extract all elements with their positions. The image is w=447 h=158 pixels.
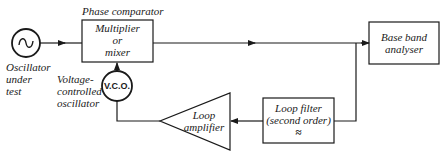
loop-amplifier-label-line: amplifier [180,121,228,133]
baseband-label-line: analyser [369,43,439,55]
baseband-label: Base band analyser [369,31,439,55]
loop-filter-label-line: (second order) [263,114,334,126]
loop-filter-label: Loop filter (second order) ≈ [263,102,334,138]
filter-symbol-icon: ≈ [263,126,334,138]
mixer-label-line: or [82,34,153,46]
vco-description-line: oscillator [57,97,102,109]
oscillator-symbol [12,29,40,57]
oscillator-label-line: Oscillator [6,61,51,73]
loop-amplifier-label: Loop amplifier [180,109,228,133]
feedback-line [334,43,356,121]
baseband-label-line: Base band [369,31,439,43]
mixer-label: Multiplier or mixer [82,22,153,58]
vco-description-line: Voltage- [57,73,102,85]
vco-symbol: V.C.O. [102,81,132,91]
mixer-label-line: Multiplier [82,22,153,34]
vco-description-line: controlled [57,85,102,97]
phase-comparator-label: Phase comparator [82,5,164,17]
oscillator-label-line: under [6,73,51,85]
vco-description: Voltage- controlled oscillator [57,73,102,109]
oscillator-label: Oscillator under test [6,61,51,97]
oscillator-label-line: test [6,85,51,97]
mixer-label-line: mixer [82,46,153,58]
loop-amplifier-label-line: Loop [180,109,228,121]
loop-filter-label-line: Loop filter [263,102,334,114]
amp-to-vco-line [117,101,160,121]
